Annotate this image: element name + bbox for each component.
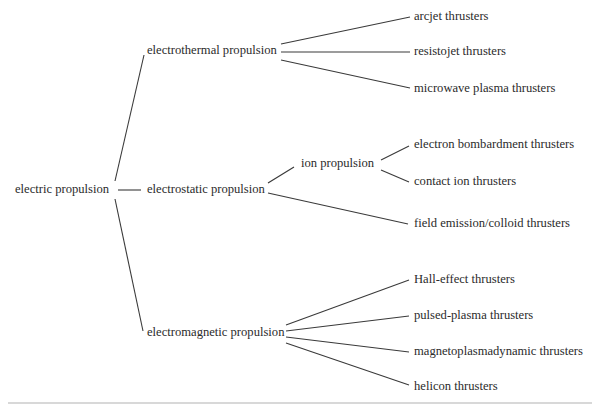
node-electrothermal: electrothermal propulsion	[147, 43, 277, 57]
edge-root-to-electromagnetic	[115, 199, 143, 331]
node-helicon: helicon thrusters	[414, 379, 498, 393]
edge-ion-to-contact-ion	[381, 170, 409, 182]
node-microwave: microwave plasma thrusters	[414, 81, 555, 95]
edge-root-to-electrothermal	[115, 55, 144, 181]
node-electrostatic: electrostatic propulsion	[147, 182, 265, 196]
propulsion-taxonomy-diagram: electric propulsionelectrothermal propul…	[0, 0, 592, 411]
edge-electrostatic-to-field-emission	[268, 193, 408, 224]
node-hall: Hall-effect thrusters	[414, 272, 515, 286]
node-resistojet: resistojet thrusters	[414, 44, 506, 58]
edge-ion-to-electron-bombardment	[381, 146, 409, 160]
node-ion: ion propulsion	[301, 156, 374, 170]
node-arcjet: arcjet thrusters	[414, 9, 488, 23]
node-pulsed-plasma: pulsed-plasma thrusters	[414, 308, 533, 322]
node-electron-bombardment: electron bombardment thrusters	[414, 137, 574, 151]
node-root: electric propulsion	[15, 182, 109, 196]
node-electromagnetic: electromagnetic propulsion	[147, 325, 284, 339]
edge-electrothermal-to-arcjet	[281, 17, 410, 44]
bottom-rule	[8, 402, 592, 404]
edge-electrothermal-to-microwave	[281, 60, 410, 88]
node-field-emission: field emission/colloid thrusters	[414, 216, 570, 230]
node-mpd: magnetoplasmadynamic thrusters	[414, 344, 583, 358]
edge-electrostatic-to-ion	[268, 167, 294, 183]
node-contact-ion: contact ion thrusters	[414, 174, 516, 188]
